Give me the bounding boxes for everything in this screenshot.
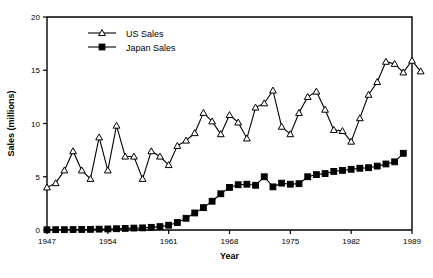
data-point-us-sales: [296, 109, 303, 115]
data-point-us-sales: [217, 131, 224, 137]
data-point-japan-sales: [227, 185, 233, 191]
data-point-japan-sales: [209, 198, 215, 204]
data-point-us-sales: [148, 148, 155, 154]
data-point-us-sales: [243, 135, 250, 141]
y-axis-title: Sales (millions): [6, 90, 16, 156]
x-tick-label: 1947: [38, 237, 56, 246]
chart-container: 051015201947195419611968197519821989Year…: [0, 0, 433, 278]
data-point-japan-sales: [96, 226, 102, 232]
y-tick-label: 0: [36, 226, 41, 235]
data-point-us-sales: [226, 112, 233, 118]
data-point-us-sales: [261, 100, 268, 106]
legend-marker-japan-sales: [99, 44, 105, 50]
data-point-us-sales: [200, 109, 207, 115]
data-point-japan-sales: [331, 169, 337, 175]
data-point-japan-sales: [314, 172, 320, 178]
data-point-japan-sales: [366, 165, 372, 171]
data-point-japan-sales: [192, 210, 198, 216]
data-point-us-sales: [322, 106, 329, 112]
y-tick-label: 20: [31, 13, 40, 22]
data-point-japan-sales: [218, 191, 224, 197]
data-point-us-sales: [70, 148, 77, 154]
data-point-japan-sales: [357, 165, 363, 171]
data-point-us-sales: [113, 122, 120, 128]
data-point-us-sales: [78, 167, 85, 173]
data-point-japan-sales: [166, 222, 172, 228]
data-point-japan-sales: [261, 174, 267, 180]
data-point-japan-sales: [88, 226, 94, 232]
data-point-japan-sales: [348, 166, 354, 172]
legend-label-us-sales: US Sales: [126, 29, 164, 39]
data-point-us-sales: [383, 58, 390, 64]
data-point-japan-sales: [244, 181, 250, 187]
data-point-us-sales: [157, 153, 164, 159]
data-point-japan-sales: [131, 225, 137, 231]
data-point-japan-sales: [253, 182, 259, 188]
series-line-japan-sales: [47, 153, 403, 229]
data-point-japan-sales: [305, 174, 311, 180]
data-point-us-sales: [330, 126, 337, 132]
data-point-us-sales: [139, 175, 146, 181]
data-point-us-sales: [96, 134, 103, 140]
data-point-japan-sales: [270, 184, 276, 190]
data-point-japan-sales: [140, 225, 146, 231]
data-point-japan-sales: [105, 226, 111, 232]
data-point-japan-sales: [235, 182, 241, 188]
data-point-japan-sales: [322, 171, 328, 177]
sales-line-chart: 051015201947195419611968197519821989Year…: [0, 0, 433, 278]
x-axis-title: Year: [220, 251, 240, 261]
data-point-japan-sales: [53, 227, 59, 233]
x-tick-label: 1968: [221, 237, 239, 246]
data-point-us-sales: [278, 123, 285, 129]
data-point-us-sales: [174, 142, 181, 148]
data-point-us-sales: [44, 184, 51, 190]
data-point-japan-sales: [157, 224, 163, 230]
data-point-us-sales: [252, 104, 259, 110]
data-point-japan-sales: [61, 227, 67, 233]
data-point-japan-sales: [279, 180, 285, 186]
data-point-japan-sales: [392, 159, 398, 165]
x-tick-label: 1975: [281, 237, 299, 246]
data-point-us-sales: [374, 79, 381, 85]
data-point-japan-sales: [383, 161, 389, 167]
legend-label-japan-sales: Japan Sales: [126, 43, 176, 53]
data-point-us-sales: [356, 115, 363, 121]
data-point-us-sales: [365, 91, 372, 97]
data-point-japan-sales: [44, 227, 50, 233]
data-point-japan-sales: [400, 150, 406, 156]
data-point-japan-sales: [296, 181, 302, 187]
data-point-japan-sales: [148, 224, 154, 230]
x-tick-label: 1961: [160, 237, 178, 246]
data-point-us-sales: [52, 180, 59, 186]
data-point-japan-sales: [174, 220, 180, 226]
data-point-japan-sales: [374, 163, 380, 169]
data-point-us-sales: [409, 57, 416, 63]
y-tick-label: 10: [31, 120, 40, 129]
y-tick-label: 5: [36, 173, 41, 182]
data-point-japan-sales: [340, 167, 346, 173]
data-point-japan-sales: [287, 181, 293, 187]
x-tick-label: 1989: [403, 237, 421, 246]
y-tick-label: 15: [31, 66, 40, 75]
data-point-us-sales: [61, 167, 68, 173]
data-point-japan-sales: [79, 227, 85, 233]
data-point-japan-sales: [114, 226, 120, 232]
data-point-japan-sales: [70, 227, 76, 233]
data-point-japan-sales: [201, 205, 207, 211]
data-point-us-sales: [304, 93, 311, 99]
data-point-japan-sales: [183, 215, 189, 221]
x-tick-label: 1982: [342, 237, 360, 246]
data-point-us-sales: [104, 167, 111, 173]
data-point-us-sales: [313, 88, 320, 94]
data-point-us-sales: [270, 87, 277, 93]
data-point-us-sales: [191, 130, 198, 136]
x-tick-label: 1954: [99, 237, 117, 246]
data-point-japan-sales: [122, 226, 128, 232]
